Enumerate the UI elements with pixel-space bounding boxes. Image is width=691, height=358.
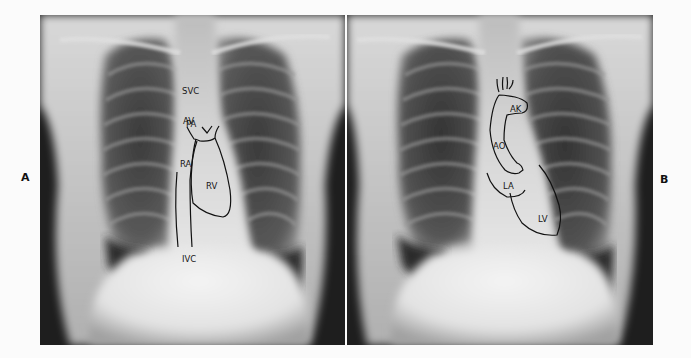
- label-ra: RA: [180, 159, 192, 169]
- label-ao: AO: [493, 141, 506, 151]
- label-lv: LV: [538, 214, 548, 224]
- label-ivc: IVC: [182, 254, 196, 264]
- xray-panel-b: AK AO LA LV: [347, 15, 653, 345]
- panel-letter-a: A: [21, 171, 30, 184]
- label-pa: PA: [186, 119, 197, 129]
- label-ak: AK: [510, 104, 522, 114]
- xray-image-a: SVC AV PA RA RV IVC: [40, 15, 345, 345]
- xray-panel-a: SVC AV PA RA RV IVC: [40, 15, 345, 345]
- xray-image-b: AK AO LA LV: [347, 15, 653, 345]
- panel-letter-b: B: [660, 173, 668, 186]
- label-la: LA: [503, 181, 514, 191]
- label-rv: RV: [206, 181, 217, 191]
- label-svc: SVC: [182, 86, 199, 96]
